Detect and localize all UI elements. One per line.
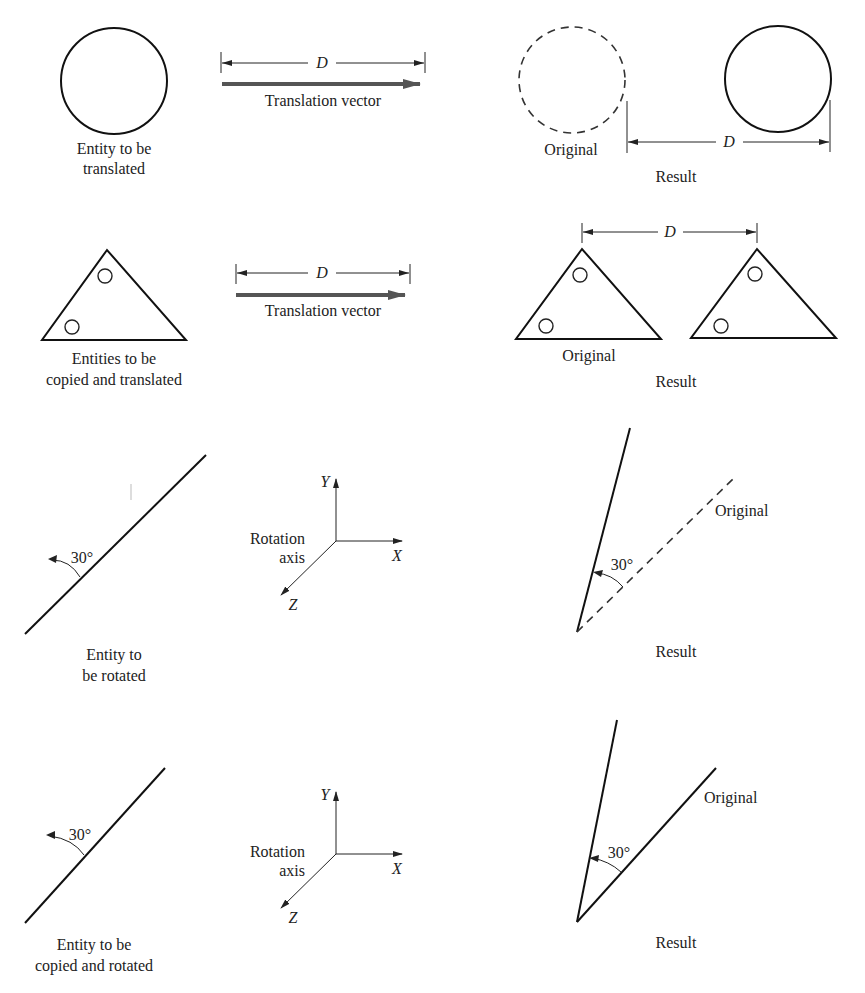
row-translate: Entity to be translated D Translation ve… [61,26,831,185]
result-dimension-d: D [582,223,757,243]
entity-label-line1: Entity to [86,646,142,664]
angle-label: 30° [608,844,630,861]
original-label: Original [704,789,758,807]
axis-z-label: Z [289,596,299,613]
original-circle-dashed [519,27,625,133]
vector-label: Translation vector [265,92,382,109]
axis-x-label: X [391,860,403,877]
row-copy-rotate: 30° Entity to be copied and rotated Y X … [25,720,758,975]
dimension-label: D [315,264,328,281]
entity-label-line2: copied and rotated [35,957,153,975]
entity-line [25,768,165,923]
original-line [577,768,716,922]
entity-circle [61,28,167,134]
svg-text:D: D [663,223,676,240]
rotation-axis-label-line1: Rotation [250,843,305,860]
result-triangle [691,249,836,338]
result-label: Result [656,643,697,660]
original-label: Original [544,141,598,159]
result-label: Result [656,934,697,951]
row-copy-translate: Entities to be copied and translated D T… [42,223,836,390]
axis-x-label: X [391,547,403,564]
coordinate-axes: Y X Z Rotation axis [250,786,403,926]
rotation-axis-label-line1: Rotation [250,530,305,547]
angle-label: 30° [611,556,633,573]
entity-label-line1: Entity to be [77,140,152,158]
entity-label-line2: be rotated [82,667,146,684]
dimension-d: D [221,52,425,73]
entity-triangle [42,250,186,340]
rotated-line [577,720,617,922]
axis-y-label: Y [321,786,332,803]
coordinate-axes: Y X Z Rotation axis [250,473,403,613]
svg-text:D: D [722,133,735,150]
angle-label: 30° [69,826,91,843]
original-label: Original [715,502,769,520]
rotated-line [577,428,630,632]
axis-y-label: Y [321,473,332,490]
original-triangle [516,249,661,339]
entity-label-line2: translated [83,160,145,177]
entity-line [25,455,206,634]
axis-z-label: Z [289,909,299,926]
result-circle [725,26,831,132]
entity-label-line2: copied and translated [46,371,182,389]
rotation-axis-label-line2: axis [279,862,305,879]
transformation-diagram: Entity to be translated D Translation ve… [0,0,865,993]
row-rotate: 30° Entity to be rotated Y X Z Rotation … [25,428,769,684]
vector-label: Translation vector [265,302,382,319]
original-label: Original [562,347,616,365]
original-line-dashed [577,476,736,632]
entity-label-line1: Entity to be [57,936,132,954]
entity-label-line1: Entities to be [72,350,156,367]
result-label: Result [656,373,697,390]
dimension-label: D [315,54,328,71]
rotation-axis-label-line2: axis [279,549,305,566]
dimension-d: D [236,264,410,284]
angle-label: 30° [71,549,93,566]
result-label: Result [656,168,697,185]
